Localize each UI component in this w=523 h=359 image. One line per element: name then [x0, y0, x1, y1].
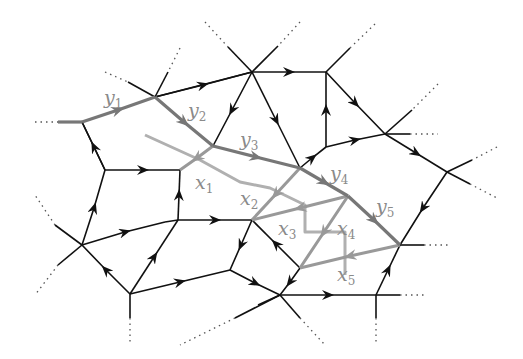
y-path: [58, 97, 400, 245]
label-x4: x4: [337, 217, 356, 242]
label-y4: y4: [329, 162, 349, 187]
label-x5: x5: [337, 263, 355, 288]
label-y2: y2: [187, 99, 206, 124]
network-edges: [55, 46, 472, 318]
label-y3: y3: [239, 128, 258, 153]
network-diagram: y1 y2 y3 y4 y5 x1 x2 x3 x4 x5: [0, 0, 523, 359]
label-y1: y1: [103, 86, 122, 111]
label-x2: x2: [240, 187, 258, 212]
label-x1: x1: [195, 171, 213, 196]
label-y5: y5: [375, 195, 394, 220]
path-labels: y1 y2 y3 y4 y5 x1 x2 x3 x4 x5: [103, 86, 394, 288]
dotted-boundary-edges: [35, 22, 497, 345]
label-x3: x3: [278, 217, 296, 242]
